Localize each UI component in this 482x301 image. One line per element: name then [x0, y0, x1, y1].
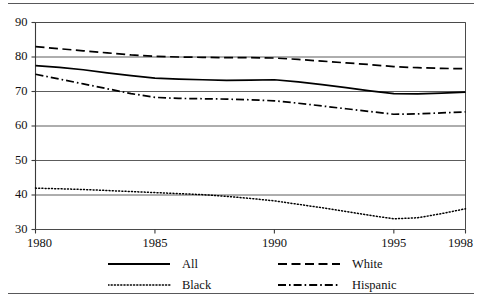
ytick-label-30: 30	[2, 223, 28, 236]
legend-label-white: White	[352, 256, 383, 272]
legend-swatch-white	[278, 255, 342, 273]
legend-swatch-hispanic	[278, 276, 342, 294]
series-line-black	[36, 188, 466, 219]
ytick-label-70: 70	[2, 85, 28, 98]
ytick-label-40: 40	[2, 188, 28, 201]
series-line-white	[36, 47, 466, 69]
ytick-label-90: 90	[2, 16, 28, 29]
plot-area	[0, 0, 482, 255]
ytick-label-60: 60	[2, 119, 28, 132]
ytick-label-80: 80	[2, 50, 28, 63]
series-line-all	[36, 66, 466, 94]
chart-legend: All Black White Hispanic	[0, 255, 482, 297]
legend-swatch-all	[108, 255, 172, 273]
xtick-label-1995: 1995	[364, 237, 424, 250]
xtick-label-1985: 1985	[125, 237, 185, 250]
xtick-label-1990: 1990	[244, 237, 304, 250]
legend-label-black: Black	[182, 277, 211, 293]
line-chart-figure: 3040506070809019801985199019951998 All B…	[0, 0, 482, 301]
ytick-label-50: 50	[2, 154, 28, 167]
xtick-label-1980: 1980	[10, 237, 70, 250]
xtick-label-1998: 1998	[431, 237, 482, 250]
legend-swatch-black	[108, 276, 172, 294]
legend-label-hispanic: Hispanic	[352, 277, 396, 293]
legend-label-all: All	[182, 256, 198, 272]
